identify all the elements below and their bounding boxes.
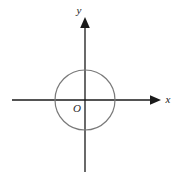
x-axis-label: x — [165, 93, 171, 105]
y-axis-arrowhead — [80, 17, 90, 28]
coordinate-plane-diagram: y x O — [0, 0, 176, 180]
x-axis-arrowhead — [150, 95, 161, 105]
y-axis-label: y — [76, 4, 82, 16]
origin-label: O — [73, 102, 81, 114]
figure-canvas: y x O — [0, 0, 176, 180]
